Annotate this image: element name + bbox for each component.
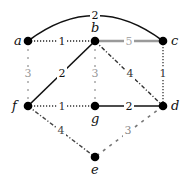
- edges-layer: [28, 16, 163, 158]
- node-label-g: g: [91, 111, 99, 126]
- node-label-e: e: [91, 162, 99, 177]
- edge-weight-g-d: 2: [126, 100, 133, 113]
- edge-weight-b-d: 4: [127, 67, 134, 80]
- node-g: [91, 102, 100, 111]
- node-f: [24, 102, 33, 111]
- node-label-d: d: [171, 98, 179, 113]
- node-label-b: b: [91, 20, 99, 35]
- node-label-c: c: [171, 33, 179, 48]
- edge-weight-f-b: 2: [59, 67, 66, 80]
- node-c: [159, 37, 168, 46]
- node-label-f: f: [11, 98, 19, 113]
- edge-weight-f-g: 1: [59, 100, 66, 113]
- edge-weight-b-g: 3: [92, 67, 99, 80]
- node-d: [159, 102, 168, 111]
- edge-weight-b-c: 5: [126, 35, 133, 48]
- node-e: [91, 153, 100, 162]
- edge-weight-d-e: 3: [125, 124, 132, 137]
- edge-weight-f-e: 4: [58, 124, 65, 137]
- node-b: [91, 37, 100, 46]
- edge-weight-a-f: 3: [25, 67, 32, 80]
- node-a: [24, 37, 33, 46]
- edge-weight-c-d: 1: [160, 67, 167, 80]
- graph-diagram: 215332411243 abcfgde: [0, 0, 188, 180]
- node-label-a: a: [14, 33, 22, 48]
- edge-weight-a-b: 1: [59, 35, 66, 48]
